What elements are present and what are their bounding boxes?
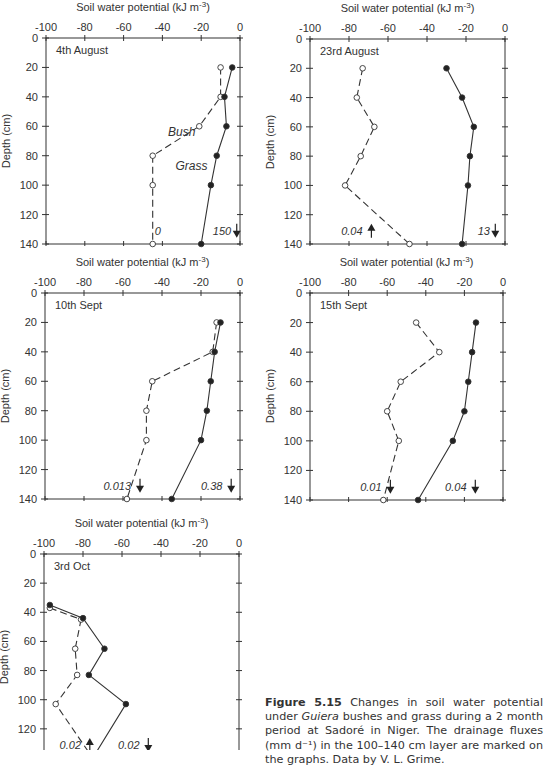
flux-value: 0.01 (360, 481, 381, 493)
x-axis-label: Soil water potential (kJ m-3) (75, 516, 209, 529)
plot-frame (310, 39, 505, 244)
chart-panel-4: Soil water potential (kJ m-3)-100-80-60-… (264, 255, 506, 506)
x-tick-label: -40 (418, 276, 434, 288)
x-tick-label: -60 (115, 276, 131, 288)
grass-point (169, 496, 175, 502)
y-tick-label: 60 (25, 375, 37, 387)
x-tick-label: -80 (341, 22, 357, 34)
y-tick-label: 20 (25, 316, 37, 328)
x-tick-label: -20 (193, 21, 209, 33)
y-tick-label: 0 (296, 287, 302, 299)
y-axis-label: Depth (cm) (0, 114, 12, 168)
bush-point (124, 496, 130, 502)
grass-point (229, 65, 235, 71)
flux-value: 0.38 (201, 480, 223, 492)
chart-panel-2: Soil water potential (kJ m-3)-100-80-60-… (264, 1, 508, 250)
y-tick-label: 120 (19, 464, 37, 476)
arrow-down-icon (227, 486, 235, 493)
y-tick-label: 140 (284, 494, 302, 506)
y-tick-label: 0 (31, 287, 37, 299)
y-tick-label: 20 (290, 317, 302, 329)
bush-point (218, 65, 224, 71)
bush-point (196, 123, 202, 129)
grass-point (444, 65, 450, 71)
chart-panel-3: Soil water potential (kJ m-3)-100-80-60-… (0, 255, 243, 505)
x-tick-label: -80 (77, 21, 93, 33)
x-tick-label: -40 (419, 22, 435, 34)
x-axis-label: Soil water potential (kJ m-3) (341, 1, 475, 14)
grass-point (459, 241, 465, 247)
x-tick-label: 0 (236, 537, 242, 549)
panel-date-label: 10th Sept (55, 299, 102, 311)
y-tick-label: 0 (32, 32, 38, 44)
bush-point (342, 183, 348, 189)
x-tick-label: -60 (116, 21, 132, 33)
bush-line (127, 322, 217, 499)
grass-point (212, 349, 218, 355)
chart-panel-5: Soil water potential (kJ m-3)-100-80-60-… (0, 516, 242, 750)
y-tick-label: 100 (284, 179, 302, 191)
bush-point (53, 701, 59, 707)
caption-label: Figure 5.15 (265, 696, 342, 709)
y-tick-label: 40 (26, 91, 38, 103)
bush-point (144, 437, 150, 443)
grass-point (208, 378, 214, 384)
panel-date-label: 4th August (56, 44, 108, 56)
x-tick-label: 0 (237, 276, 243, 288)
panel-date-label: 3rd Oct (54, 560, 90, 572)
grass-point (86, 672, 92, 678)
arrow-down-icon (491, 231, 499, 238)
arrow-down-icon (471, 487, 479, 494)
bush-point (150, 241, 156, 247)
series-label: Bush (168, 125, 196, 139)
grass-point (473, 320, 479, 326)
y-tick-label: 80 (25, 405, 37, 417)
y-tick-label: 0 (296, 33, 302, 45)
flux-value: 0.04 (341, 225, 362, 237)
bush-point (396, 438, 402, 444)
y-tick-label: 80 (290, 405, 302, 417)
x-tick-label: -100 (299, 22, 321, 34)
bush-point (358, 153, 364, 159)
grass-point (465, 379, 471, 385)
y-tick-label: 140 (19, 493, 37, 505)
bush-point (372, 124, 378, 130)
x-tick-label: -40 (154, 276, 170, 288)
plot-frame (45, 293, 240, 499)
x-tick-label: -100 (299, 276, 321, 288)
arrow-down-icon (144, 745, 152, 750)
y-axis-label: Depth (cm) (0, 369, 11, 423)
bush-line (153, 67, 221, 244)
arrow-up-icon (86, 738, 94, 745)
grass-point (459, 95, 465, 101)
x-axis-label: Soil water potential (kJ m-3) (76, 0, 210, 13)
grass-point (469, 349, 475, 355)
y-tick-label: 40 (290, 92, 302, 104)
chart-panel-1: Soil water potential (kJ m-3)-100-80-60-… (0, 0, 243, 250)
grass-point (467, 153, 473, 159)
y-axis-label: Depth (cm) (0, 630, 10, 684)
x-tick-label: -40 (154, 21, 170, 33)
y-tick-label: 80 (24, 665, 36, 677)
x-tick-label: -60 (114, 537, 130, 549)
grass-point (80, 615, 86, 621)
y-tick-label: 60 (24, 635, 36, 647)
x-tick-label: 0 (237, 21, 243, 33)
grass-point (198, 437, 204, 443)
flux-value: 0 (155, 225, 162, 237)
flux-value: 0.013 (104, 480, 132, 492)
x-axis-label: Soil water potential (kJ m-3) (340, 255, 474, 268)
bush-point (74, 672, 80, 678)
y-tick-label: 20 (26, 61, 38, 73)
grass-point (471, 124, 477, 130)
grass-point (218, 320, 224, 326)
bush-point (381, 497, 387, 503)
y-tick-label: 120 (284, 464, 302, 476)
x-tick-label: 0 (502, 22, 508, 34)
panel-date-label: 15th Sept (320, 299, 367, 311)
flux-value: 0.04 (445, 481, 466, 493)
y-tick-label: 60 (290, 376, 302, 388)
y-tick-label: 40 (290, 346, 302, 358)
bush-line (50, 608, 93, 750)
bush-point (360, 65, 366, 71)
